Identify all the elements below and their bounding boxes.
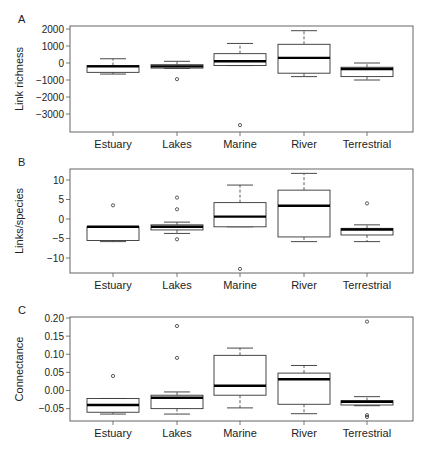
outlier-point <box>175 78 178 81</box>
iqr-box <box>214 203 266 227</box>
box-river <box>278 173 330 241</box>
x-tick-label: Lakes <box>162 279 192 291</box>
outlier-point <box>111 374 114 377</box>
iqr-box <box>87 227 139 241</box>
figure: A200010000−1000−2000−3000Link richnessEs… <box>0 0 427 452</box>
x-tick-label: River <box>291 427 317 439</box>
y-axis-label: Links/species <box>13 187 25 254</box>
box-marine <box>214 348 266 408</box>
y-tick-label: −2000 <box>36 92 65 103</box>
panel-a: A200010000−1000−2000−3000Link richnessEs… <box>13 13 413 150</box>
x-tick-label: Estuary <box>94 138 132 150</box>
box-estuary <box>87 374 139 414</box>
y-axis-label: Link richness <box>13 46 25 111</box>
x-tick-label: Estuary <box>94 279 132 291</box>
outlier-point <box>111 204 114 207</box>
y-tick-label: −1000 <box>36 75 65 86</box>
x-tick-label: Terrestrial <box>343 427 391 439</box>
outlier-point <box>175 324 178 327</box>
x-tick-label: Terrestrial <box>343 138 391 150</box>
y-axis-label: Connectance <box>13 337 25 402</box>
boxplot-figure: A200010000−1000−2000−3000Link richnessEs… <box>0 0 427 452</box>
box-marine <box>214 43 266 126</box>
y-tick-label: 0 <box>58 214 64 225</box>
y-tick-label: 0.20 <box>45 313 65 324</box>
plot-frame <box>70 26 413 132</box>
panel-label: C <box>18 304 26 316</box>
x-tick-label: Terrestrial <box>343 279 391 291</box>
y-tick-label: 10 <box>53 175 65 186</box>
outlier-point <box>365 320 368 323</box>
panel-label: A <box>18 13 26 25</box>
panel-b: B1050−5−10Links/speciesEstuaryLakesMarin… <box>13 156 413 291</box>
box-estuary <box>87 204 139 242</box>
outlier-point <box>175 356 178 359</box>
y-tick-label: 0.10 <box>45 349 65 360</box>
box-estuary <box>87 59 139 74</box>
box-terrestrial <box>341 202 393 242</box>
x-tick-label: Lakes <box>162 138 192 150</box>
iqr-box <box>214 355 266 395</box>
outlier-point <box>238 123 241 126</box>
y-tick-label: 0.15 <box>45 331 65 342</box>
y-tick-label: 5 <box>58 194 64 205</box>
outlier-point <box>365 202 368 205</box>
iqr-box <box>278 190 330 237</box>
outlier-point <box>175 196 178 199</box>
x-tick-label: River <box>291 138 317 150</box>
y-tick-label: −10 <box>47 253 64 264</box>
box-terrestrial <box>341 320 393 419</box>
y-tick-label: −0.05 <box>39 403 65 414</box>
y-tick-label: 0.00 <box>45 385 65 396</box>
x-tick-label: Marine <box>223 427 257 439</box>
box-river <box>278 365 330 413</box>
panel-c: C0.200.150.100.050.00−0.05ConnectanceEst… <box>13 304 413 439</box>
box-lakes <box>151 196 203 241</box>
x-tick-label: Marine <box>223 138 257 150</box>
y-tick-label: 0 <box>58 58 64 69</box>
y-tick-label: 0.05 <box>45 367 65 378</box>
box-lakes <box>151 61 203 80</box>
y-tick-label: 2000 <box>42 24 65 35</box>
panel-label: B <box>18 156 25 168</box>
x-tick-label: Estuary <box>94 427 132 439</box>
outlier-point <box>175 238 178 241</box>
box-terrestrial <box>341 63 393 80</box>
box-lakes <box>151 324 203 414</box>
x-tick-label: Lakes <box>162 427 192 439</box>
y-tick-label: −5 <box>53 233 65 244</box>
outlier-point <box>238 267 241 270</box>
box-river <box>278 31 330 77</box>
iqr-box <box>214 54 266 66</box>
y-tick-label: 1000 <box>42 41 65 52</box>
box-marine <box>214 185 266 270</box>
x-tick-label: Marine <box>223 279 257 291</box>
outlier-point <box>175 208 178 211</box>
y-tick-label: −3000 <box>36 109 65 120</box>
x-tick-label: River <box>291 279 317 291</box>
iqr-box <box>278 373 330 404</box>
